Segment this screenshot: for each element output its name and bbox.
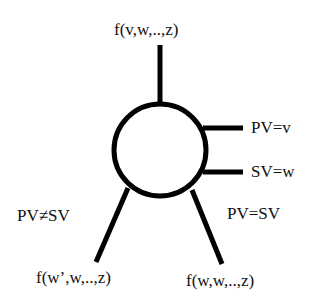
branch-left-result: f(w’,w,..,z) — [36, 269, 111, 286]
branch-left-line — [96, 188, 128, 262]
pv-input-label: PV=v — [251, 119, 291, 136]
branch-right-result: f(w,w,..,z) — [186, 272, 254, 289]
diagram-graphics — [0, 0, 325, 307]
branch-left-condition: PV≠SV — [17, 207, 70, 224]
top-output-label: f(v,w,..,z) — [114, 21, 178, 38]
sv-input-label: SV=w — [251, 163, 295, 180]
branch-right-line — [192, 190, 222, 264]
diagram-canvas: f(v,w,..,z) PV=v SV=w PV≠SV PV=SV f(w’,w… — [0, 0, 325, 307]
branch-right-condition: PV=SV — [227, 205, 280, 222]
node-circle — [114, 104, 206, 196]
